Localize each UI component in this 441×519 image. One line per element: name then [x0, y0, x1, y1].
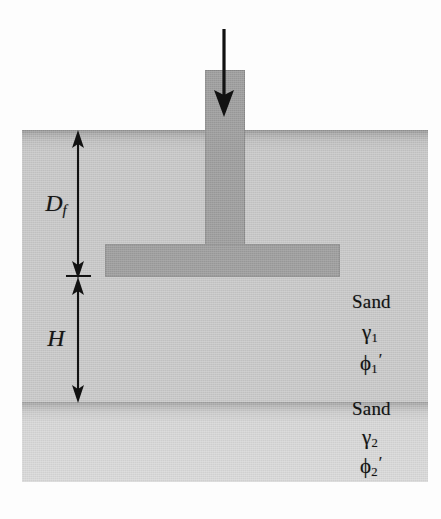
soil-label-lower-unit-weight: γ2: [362, 425, 378, 451]
phi-subscript-lower: 2: [371, 465, 378, 479]
dimension-label-df-main: D: [45, 190, 62, 216]
phi-prime-upper: ′: [379, 350, 383, 369]
soil-label-upper-friction-angle: ϕ1′: [360, 350, 383, 377]
dimension-label-h-main: H: [47, 325, 64, 351]
dimension-label-h: H: [26, 325, 86, 352]
concrete-grain-texture-base: [105, 244, 340, 277]
soil-label-upper-name: Sand: [352, 291, 391, 313]
dimension-label-df-subscript: f: [63, 202, 67, 218]
phi-prime-lower: ′: [379, 453, 383, 472]
soil-label-lower-friction-angle: ϕ2′: [360, 453, 383, 480]
gamma-subscript-lower: 2: [371, 436, 378, 450]
gamma-subscript-upper: 1: [371, 331, 378, 345]
foundation-layered-sand-figure: Df H Sand γ1 ϕ1′ Sand γ2 ϕ2′: [0, 0, 441, 519]
phi-subscript-upper: 1: [371, 362, 378, 376]
phi-symbol-lower: ϕ: [360, 454, 371, 478]
soil-label-upper-unit-weight: γ1: [362, 320, 378, 346]
foundation-footing-base: [105, 244, 340, 277]
soil-label-lower-name: Sand: [352, 398, 391, 420]
downward-load-arrow: [180, 20, 270, 125]
phi-symbol-upper: ϕ: [360, 351, 371, 375]
dimension-label-df: Df: [26, 190, 86, 219]
